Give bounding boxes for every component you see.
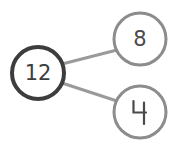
diagram-canvas: 8 4 12 (0, 0, 171, 150)
edge-total-to-part-2 (62, 83, 117, 101)
edge-total-to-part-1 (62, 50, 117, 64)
number-bond-diagram: 8 4 12 (0, 0, 171, 150)
node-part-1-label: 8 (133, 27, 146, 51)
node-total-label: 12 (25, 61, 52, 85)
